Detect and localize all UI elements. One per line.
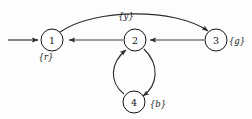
node-4-label: 4	[131, 97, 137, 108]
graph-svg: 1 2 3 4 {r} {y} {g} {b}	[0, 0, 252, 119]
set-label-b: {b}	[150, 99, 166, 109]
edge-node4-to-node2	[113, 50, 126, 94]
set-label-g: {g}	[229, 36, 245, 46]
set-label-y: {y}	[118, 11, 134, 21]
node-3[interactable]: 3	[205, 29, 227, 51]
edge-node2-to-node4	[143, 49, 155, 96]
node-3-label: 3	[213, 35, 219, 46]
node-2-label: 2	[132, 35, 138, 46]
diagram-canvas: 1 2 3 4 {r} {y} {g} {b}	[0, 0, 252, 119]
node-1-label: 1	[49, 35, 55, 46]
node-1[interactable]: 1	[41, 29, 63, 51]
node-4[interactable]: 4	[123, 91, 145, 113]
node-2[interactable]: 2	[124, 29, 146, 51]
set-label-r: {r}	[39, 52, 54, 62]
